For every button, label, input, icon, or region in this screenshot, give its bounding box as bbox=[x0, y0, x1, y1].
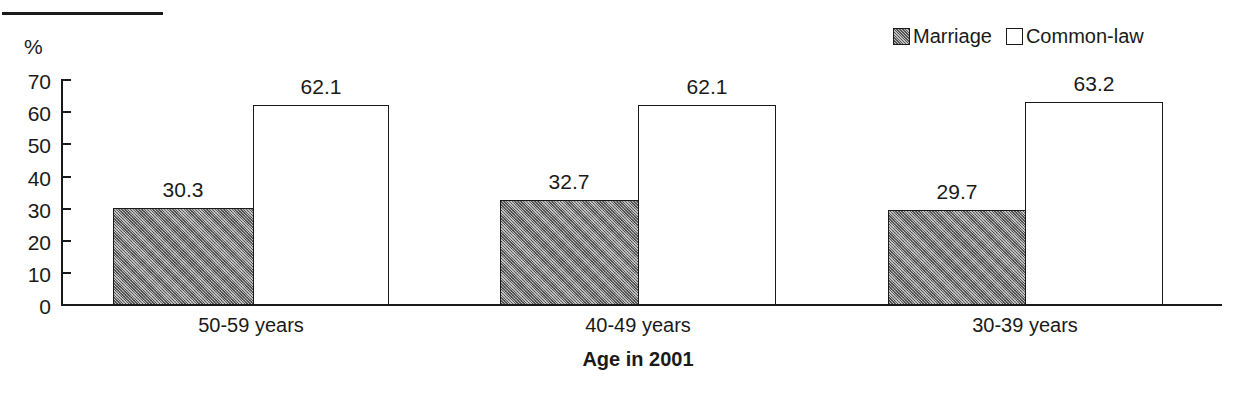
bar-marriage-40-49 bbox=[500, 200, 639, 305]
value-label-common-law-30-39: 63.2 bbox=[1044, 73, 1144, 94]
bar-marriage-50-59 bbox=[113, 208, 254, 305]
bar-common-law-30-39 bbox=[1025, 102, 1163, 305]
x-category-label-40-49: 40-49 years bbox=[538, 315, 738, 335]
bar-marriage-30-39 bbox=[888, 210, 1026, 305]
bar-common-law-40-49 bbox=[638, 105, 776, 305]
x-axis-title: Age in 2001 bbox=[538, 349, 738, 369]
plot-area bbox=[0, 0, 1247, 306]
value-label-common-law-40-49: 62.1 bbox=[657, 76, 757, 97]
value-label-marriage-50-59: 30.3 bbox=[133, 179, 233, 200]
value-label-marriage-40-49: 32.7 bbox=[519, 171, 619, 192]
bar-common-law-50-59 bbox=[253, 105, 389, 305]
x-category-label-50-59: 50-59 years bbox=[151, 315, 351, 335]
bar-chart-figure: Marriage Common-law % 70 60 50 40 30 20 … bbox=[0, 0, 1247, 395]
x-category-label-30-39: 30-39 years bbox=[925, 315, 1125, 335]
value-label-common-law-50-59: 62.1 bbox=[271, 76, 371, 97]
value-label-marriage-30-39: 29.7 bbox=[907, 181, 1007, 202]
